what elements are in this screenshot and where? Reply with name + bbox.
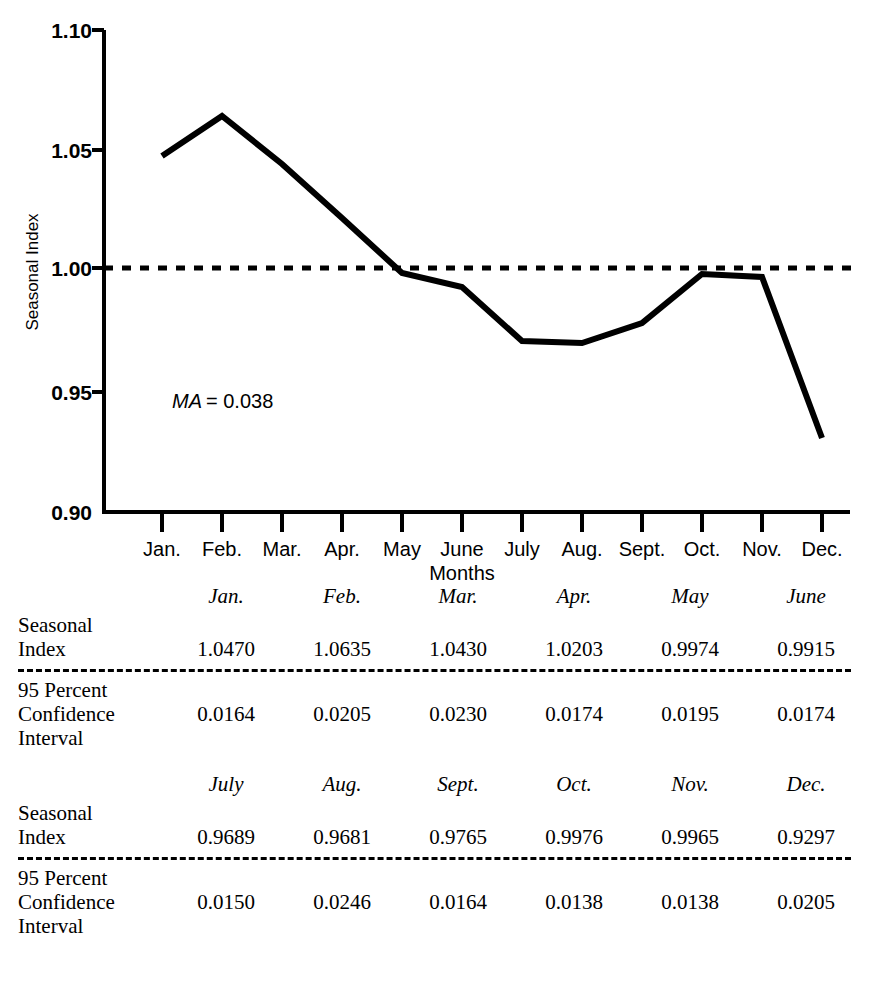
table-row: Seasonal Index 0.9689 0.9681 0.9765 0.99… [0, 801, 869, 850]
block-spacer [0, 750, 869, 772]
row-label-line: 95 Percent [18, 678, 168, 702]
table-cell: 0.9689 [168, 825, 284, 850]
table-block-first-half: Jan. Feb. Mar. Apr. May June Seasonal In… [0, 584, 869, 750]
row-label-line: Seasonal [18, 613, 168, 637]
row-label-line: Index [18, 637, 168, 661]
column-header: Nov. [632, 772, 748, 797]
row-label-seasonal-index: Seasonal Index [0, 613, 168, 661]
row-label-line: Interval [18, 914, 168, 938]
table-cell: 0.0230 [400, 702, 516, 727]
x-label-aug: Aug. [561, 538, 602, 560]
table-cell: 0.0138 [632, 890, 748, 915]
table-cell: 0.9915 [748, 637, 864, 662]
row-label-seasonal-index: Seasonal Index [0, 801, 168, 849]
x-label-july: July [504, 538, 540, 560]
dashed-separator [18, 669, 851, 672]
column-header: June [748, 584, 864, 609]
column-header: Oct. [516, 772, 632, 797]
row-label-line: 95 Percent [18, 866, 168, 890]
dashed-separator [18, 857, 851, 860]
x-label-dec: Dec. [801, 538, 842, 560]
x-label-may: May [383, 538, 421, 560]
table-cell: 0.0174 [516, 702, 632, 727]
column-header: Aug. [284, 772, 400, 797]
table-cell: 0.9976 [516, 825, 632, 850]
table-header-row: Jan. Feb. Mar. Apr. May June [0, 584, 869, 609]
ma-annotation-value: = 0.038 [206, 390, 273, 412]
table-header-row: July Aug. Sept. Oct. Nov. Dec. [0, 772, 869, 797]
table-block-second-half: July Aug. Sept. Oct. Nov. Dec. Seasonal … [0, 772, 869, 938]
table-cell: 1.0635 [284, 637, 400, 662]
table-cell: 0.0138 [516, 890, 632, 915]
y-tick-label-090: 0.90 [51, 501, 92, 524]
table-cell: 0.0205 [284, 702, 400, 727]
y-axis-title: Seasonal Index [23, 213, 42, 331]
row-label-confidence-interval: 95 Percent Confidence Interval [0, 866, 168, 938]
x-label-sept: Sept. [619, 538, 666, 560]
y-tick-label-100: 1.00 [51, 257, 92, 280]
table-cell: 0.9681 [284, 825, 400, 850]
table-cell: 0.9965 [632, 825, 748, 850]
table-cell: 0.0150 [168, 890, 284, 915]
table-row: 95 Percent Confidence Interval 0.0150 0.… [0, 866, 869, 938]
table-cell: 0.0164 [400, 890, 516, 915]
row-label-line: Confidence [18, 702, 168, 726]
table-row: 95 Percent Confidence Interval 0.0164 0.… [0, 678, 869, 750]
x-label-nov: Nov. [742, 538, 782, 560]
column-header: July [168, 772, 284, 797]
y-tick-label-110: 1.10 [51, 19, 92, 42]
x-label-feb: Feb. [202, 538, 242, 560]
x-label-mar: Mar. [263, 538, 302, 560]
table-cell: 0.9297 [748, 825, 864, 850]
column-header: Apr. [516, 584, 632, 609]
table-cell: 0.9765 [400, 825, 516, 850]
ma-annotation-symbol: MA [172, 390, 202, 412]
x-axis-title: Months [429, 562, 495, 580]
seasonal-index-chart: 1.10 1.05 1.00 0.95 0.90 Jan. Feb. [0, 0, 869, 580]
table-cell: 1.0430 [400, 637, 516, 662]
column-header: Jan. [168, 584, 284, 609]
x-label-jan: Jan. [143, 538, 181, 560]
row-label-line: Index [18, 825, 168, 849]
row-label-line: Confidence [18, 890, 168, 914]
table-row: Seasonal Index 1.0470 1.0635 1.0430 1.02… [0, 613, 869, 662]
seasonal-index-table: Jan. Feb. Mar. Apr. May June Seasonal In… [0, 584, 869, 938]
x-label-oct: Oct. [684, 538, 721, 560]
column-header: Sept. [400, 772, 516, 797]
row-label-line: Seasonal [18, 801, 168, 825]
x-label-apr: Apr. [324, 538, 360, 560]
row-label-confidence-interval: 95 Percent Confidence Interval [0, 678, 168, 750]
table-cell: 0.9974 [632, 637, 748, 662]
table-cell: 1.0470 [168, 637, 284, 662]
column-header: Dec. [748, 772, 864, 797]
row-label-line: Interval [18, 726, 168, 750]
column-header: Feb. [284, 584, 400, 609]
table-cell: 0.0174 [748, 702, 864, 727]
table-cell: 1.0203 [516, 637, 632, 662]
table-cell: 0.0205 [748, 890, 864, 915]
table-cell: 0.0195 [632, 702, 748, 727]
y-tick-label-105: 1.05 [51, 139, 92, 162]
column-header: Mar. [400, 584, 516, 609]
chart-canvas: 1.10 1.05 1.00 0.95 0.90 Jan. Feb. [0, 0, 869, 580]
column-header: May [632, 584, 748, 609]
table-cell: 0.0246 [284, 890, 400, 915]
table-cell: 0.0164 [168, 702, 284, 727]
x-label-june: June [440, 538, 483, 560]
y-tick-label-095: 0.95 [51, 381, 92, 404]
